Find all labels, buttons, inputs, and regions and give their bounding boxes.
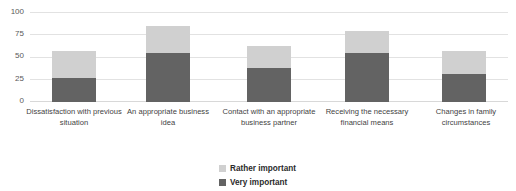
bar-segment-rather-important-4 [442,51,486,74]
category-label-4: Changes in family circumstances [420,106,512,128]
legend-item-very-important[interactable]: Very important [219,176,399,188]
category-label-1: An appropriate business idea [122,106,214,128]
bar-segment-very-important-3 [345,53,389,102]
bar-segment-rather-important-1 [146,26,190,53]
legend-item-rather-important[interactable]: Rather important [219,162,399,174]
bar-segment-very-important-4 [442,74,486,102]
bar-group-4 [442,12,486,102]
y-tick-label-50: 50 [0,52,24,60]
y-tick-label-25: 25 [0,75,24,83]
category-label-0: Dissatisfaction with previous situation [22,106,126,128]
legend-swatch-icon-very-important [219,179,226,186]
bar-segment-very-important-2 [247,68,291,102]
y-tick-label-100: 100 [0,8,24,16]
bar-group-0 [52,12,96,102]
legend-label-rather-important: Rather important [230,164,296,173]
chart-legend: Rather important Very important [219,162,399,190]
bar-segment-rather-important-3 [345,31,389,53]
bars-layer [30,12,508,102]
bar-segment-very-important-0 [52,78,96,102]
bar-group-1 [146,12,190,102]
y-tick-label-75: 75 [0,30,24,38]
bar-group-3 [345,12,389,102]
category-label-3: Receiving the necessary financial means [318,106,416,128]
bar-segment-very-important-1 [146,53,190,102]
legend-label-very-important: Very important [230,178,287,187]
legend-swatch-icon-rather-important [219,165,226,172]
bar-group-2 [247,12,291,102]
category-labels: Dissatisfaction with previous situation … [30,106,508,152]
bar-segment-rather-important-2 [247,46,291,68]
category-label-2: Contact with an appropriate business par… [220,106,318,128]
y-tick-label-0: 0 [0,97,24,105]
bar-segment-rather-important-0 [52,51,96,78]
stacked-bar-chart: 100 75 50 25 0 Dissatisfaction with prev… [0,0,516,191]
